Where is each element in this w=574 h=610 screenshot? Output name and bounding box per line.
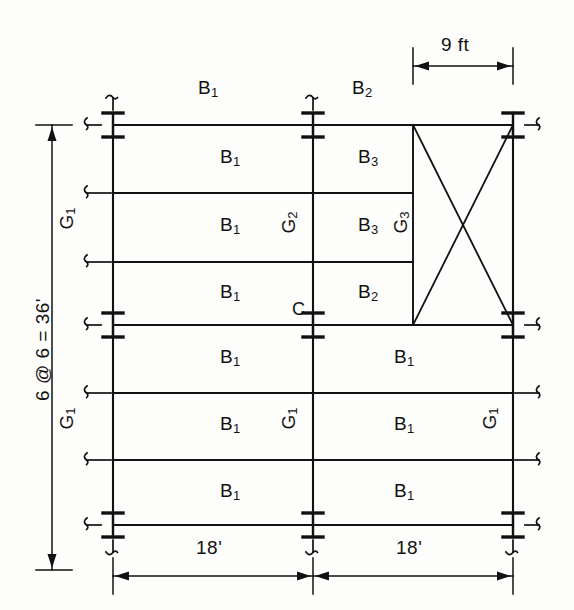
beam-label: B2 [352, 78, 372, 99]
beam-label: B3 [358, 147, 378, 168]
break-mark-icon [84, 453, 111, 465]
break-mark-icon [515, 453, 540, 465]
connection-label-c: C [292, 300, 305, 318]
break-mark-icon [84, 318, 101, 330]
bottom-dimension-right [313, 558, 513, 594]
beam-label: B1 [220, 414, 240, 435]
beam-label: B1 [394, 481, 414, 502]
break-mark-icon [106, 540, 118, 555]
break-mark-icon [525, 518, 540, 530]
break-mark-icon [525, 318, 540, 330]
break-mark-icon [506, 540, 518, 555]
bottom-left-dimension-label: 18' [196, 538, 222, 557]
beam-label: B1 [220, 347, 240, 368]
beam-label: B1 [198, 78, 218, 99]
girder-label: G1 [480, 407, 501, 429]
girder-label: G1 [279, 407, 300, 429]
girder-label: G2 [279, 211, 300, 233]
beam-label: B1 [220, 481, 240, 502]
beam-label: B1 [220, 147, 240, 168]
break-mark-icon [306, 95, 318, 110]
break-mark-icon [525, 118, 540, 130]
girder-label: G1 [57, 407, 78, 429]
break-mark-icon [106, 95, 118, 110]
break-mark-icon [84, 386, 111, 398]
girder-label: G1 [57, 207, 78, 229]
bottom-right-dimension-label: 18' [396, 538, 422, 557]
break-mark-icon [84, 255, 111, 267]
beam-label: B1 [220, 282, 240, 303]
beam-label: B3 [358, 215, 378, 236]
x-bracing [414, 127, 512, 323]
left-dimension-label: 6 @ 6 = 36' [33, 290, 52, 410]
girder-label: G3 [391, 211, 412, 233]
beam-label: B1 [220, 215, 240, 236]
beam-label: B1 [394, 347, 414, 368]
break-mark-icon [306, 540, 318, 555]
break-mark-icon [84, 118, 101, 130]
break-mark-icon [84, 186, 111, 198]
break-mark-icon [515, 386, 540, 398]
bottom-dimension-left [113, 558, 313, 594]
beam-label: B1 [394, 414, 414, 435]
structural-framing-plan: B1 B2 B1 B3 B1 B3 B1 B2 B1 B1 B1 B1 B1 B… [0, 0, 574, 610]
beam-label: B2 [358, 282, 378, 303]
top-right-dimension-label: 9 ft [441, 35, 469, 54]
break-mark-icon [84, 518, 101, 530]
framing-plan-linework [0, 0, 574, 610]
